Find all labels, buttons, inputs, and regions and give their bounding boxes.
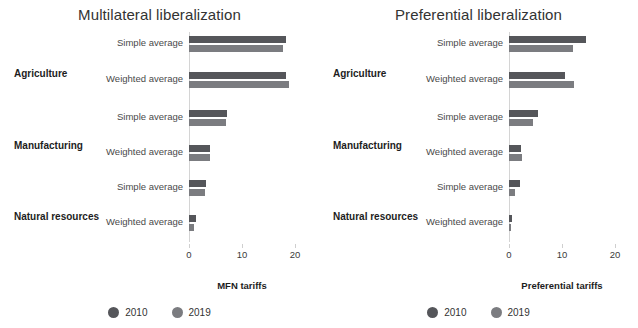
legend-swatch-icon <box>172 307 183 318</box>
y-axis-line <box>189 32 190 242</box>
bar-2019 <box>509 45 573 52</box>
bar-row-label: Weighted average <box>426 146 503 157</box>
legend-item-2019[interactable]: 2019 <box>172 307 211 318</box>
bar-2010 <box>189 110 227 117</box>
bar-row-label: Simple average <box>437 111 503 122</box>
bar-pair: Simple average <box>189 180 295 200</box>
x-tick-mark <box>295 244 296 248</box>
panel-title: Multilateral liberalization <box>0 6 319 23</box>
legend-item-2019[interactable]: 2019 <box>491 307 530 318</box>
figure: Multilateral liberalization Simple avera… <box>0 0 638 328</box>
bar-row-label: Weighted average <box>106 73 183 84</box>
bar-row-label: Weighted average <box>106 216 183 227</box>
panel-multilateral: Multilateral liberalization Simple avera… <box>0 0 319 328</box>
bar-2010 <box>189 72 286 79</box>
bar-2010 <box>509 145 521 152</box>
y-axis-line <box>509 32 510 242</box>
bar-2010 <box>509 180 520 187</box>
x-tick-mark <box>189 244 190 248</box>
x-tick-label: 10 <box>237 249 248 260</box>
bar-2019 <box>509 119 533 126</box>
bar-2010 <box>509 215 512 222</box>
bar-pair: Weighted average <box>189 72 295 92</box>
bar-row-label: Simple average <box>117 181 183 192</box>
group-label-agriculture: Agriculture <box>333 68 386 79</box>
bar-2010 <box>189 215 196 222</box>
legend-label: 2010 <box>444 307 466 318</box>
legend-swatch-icon <box>427 307 438 318</box>
bar-2010 <box>189 36 286 43</box>
group-label-natural-resources: Natural resources <box>14 211 99 222</box>
bar-pair: Weighted average <box>189 145 295 165</box>
bar-pair: Simple average <box>509 36 615 56</box>
x-axis-ticks: 01020 <box>189 244 295 270</box>
bar-2010 <box>189 145 210 152</box>
x-tick-mark <box>242 244 243 248</box>
legend-item-2010[interactable]: 2010 <box>108 307 147 318</box>
bar-pair: Weighted average <box>509 215 615 235</box>
x-tick-label: 0 <box>186 249 191 260</box>
group-label-manufacturing: Manufacturing <box>14 140 83 151</box>
legend-label: 2019 <box>189 307 211 318</box>
legend-swatch-icon <box>108 307 119 318</box>
bar-row-label: Weighted average <box>426 73 503 84</box>
bar-row-label: Simple average <box>117 37 183 48</box>
bar-pair: Simple average <box>509 180 615 200</box>
bar-pair: Weighted average <box>189 215 295 235</box>
bar-pair: Simple average <box>189 110 295 130</box>
group-label-natural-resources: Natural resources <box>333 211 418 222</box>
bar-2019 <box>189 189 205 196</box>
x-tick-label: 10 <box>557 249 568 260</box>
x-tick-label: 20 <box>290 249 301 260</box>
legend-swatch-icon <box>491 307 502 318</box>
bar-pair: Weighted average <box>509 145 615 165</box>
bar-pair: Weighted average <box>509 72 615 92</box>
bar-2019 <box>509 154 522 161</box>
bar-pair: Simple average <box>509 110 615 130</box>
legend: 20102019 <box>319 307 638 318</box>
bar-pair: Simple average <box>189 36 295 56</box>
plot-area: Simple averageWeighted averageSimple ave… <box>509 32 615 242</box>
x-tick-label: 20 <box>610 249 621 260</box>
bar-2019 <box>509 189 515 196</box>
legend-item-2010[interactable]: 2010 <box>427 307 466 318</box>
x-tick-mark <box>509 244 510 248</box>
bar-row-label: Weighted average <box>106 146 183 157</box>
bar-row-label: Simple average <box>437 181 503 192</box>
panel-title: Preferential liberalization <box>319 6 638 23</box>
bar-2010 <box>509 110 538 117</box>
plot-area: Simple averageWeighted averageSimple ave… <box>189 32 295 242</box>
x-tick-mark <box>615 244 616 248</box>
bar-row-label: Simple average <box>437 37 503 48</box>
bar-2019 <box>509 81 574 88</box>
x-tick-label: 0 <box>506 249 511 260</box>
bar-2019 <box>189 81 289 88</box>
bar-2019 <box>509 224 511 231</box>
x-axis-title: MFN tariffs <box>189 280 295 291</box>
x-axis-title: Preferential tariffs <box>509 280 615 291</box>
legend-label: 2019 <box>508 307 530 318</box>
panel-preferential: Preferential liberalization Simple avera… <box>319 0 638 328</box>
bar-2019 <box>189 45 283 52</box>
bar-2010 <box>509 72 565 79</box>
x-axis-ticks: 01020 <box>509 244 615 270</box>
legend-label: 2010 <box>125 307 147 318</box>
group-label-agriculture: Agriculture <box>14 68 67 79</box>
group-label-manufacturing: Manufacturing <box>333 140 402 151</box>
bar-2010 <box>189 180 206 187</box>
legend: 20102019 <box>0 307 319 318</box>
bar-row-label: Weighted average <box>426 216 503 227</box>
bar-2019 <box>189 154 210 161</box>
bar-2019 <box>189 224 194 231</box>
bar-2019 <box>189 119 226 126</box>
bar-2010 <box>509 36 586 43</box>
x-tick-mark <box>562 244 563 248</box>
bar-row-label: Simple average <box>117 111 183 122</box>
